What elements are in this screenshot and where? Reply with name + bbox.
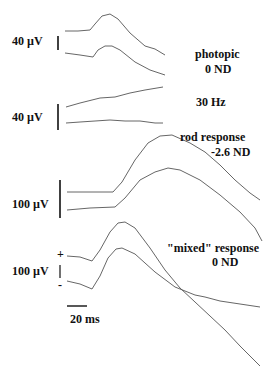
plus-marker: + — [57, 247, 64, 261]
mixed-amplitude-label: 100 µV — [12, 264, 49, 278]
time-scale-label: 20 ms — [70, 312, 100, 326]
erg-figure: 40 µV 40 µV 100 µV 100 µV + - 20 ms phot… — [0, 0, 274, 374]
rod-nd-label: -2.6 ND — [211, 145, 251, 159]
photopic-trace-1 — [65, 14, 165, 55]
photopic-label: photopic — [195, 47, 240, 61]
flicker-trace-1 — [66, 87, 163, 107]
erg-traces-svg: 40 µV 40 µV 100 µV 100 µV + - 20 ms phot… — [0, 0, 274, 374]
flicker-trace-2 — [66, 120, 163, 123]
photopic-amplitude-label: 40 µV — [12, 34, 43, 48]
minus-marker: - — [58, 278, 62, 292]
rod-label: rod response — [180, 130, 246, 144]
rod-trace-2 — [67, 168, 262, 241]
photopic-trace-2 — [65, 46, 165, 75]
mixed-label: "mixed" response — [167, 241, 260, 255]
flicker-label: 30 Hz — [196, 95, 226, 109]
rod-amplitude-label: 100 µV — [12, 197, 49, 211]
flicker-amplitude-label: 40 µV — [12, 110, 43, 124]
mixed-nd-label: 0 ND — [212, 255, 239, 269]
photopic-nd-label: 0 ND — [205, 62, 232, 76]
